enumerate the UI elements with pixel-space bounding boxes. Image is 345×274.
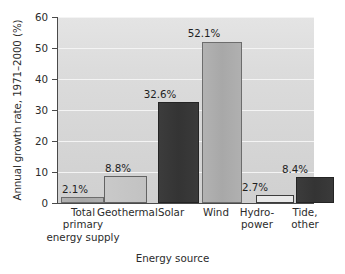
gridline-50 — [58, 48, 314, 49]
x-category-label-tide-other: Tide, other — [282, 206, 328, 231]
x-category-label-wind: Wind — [195, 206, 237, 218]
bar-chart-figure: Annual growth rate, 1971–2000 (%) 0 10 2… — [0, 0, 345, 274]
x-category-label-hydro-power: Hydro- power — [233, 206, 281, 231]
x-category-label-geothermal: Geothermal — [97, 206, 141, 218]
y-tick-label-40: 40 — [8, 74, 48, 84]
bar-wind[interactable] — [202, 42, 242, 204]
y-tick-label-60: 60 — [8, 12, 48, 22]
bar-total-primary-energy-supply[interactable] — [61, 197, 104, 204]
bar-geothermal[interactable] — [104, 176, 147, 203]
bar-solar[interactable] — [158, 102, 199, 203]
bar-tide-other[interactable] — [296, 177, 334, 203]
plot-area — [57, 17, 314, 204]
value-label-tide-other: 8.4% — [271, 164, 319, 175]
gridline-60 — [58, 17, 314, 18]
value-label-wind: 52.1% — [177, 28, 231, 39]
bar-hydro-power[interactable] — [256, 195, 294, 203]
y-tick-label-30: 30 — [8, 105, 48, 115]
value-label-hydro-power: 2.7% — [231, 182, 279, 193]
y-tick-label-10: 10 — [8, 167, 48, 177]
y-tick-label-50: 50 — [8, 43, 48, 53]
gridline-40 — [58, 79, 314, 80]
x-axis-title: Energy source — [0, 252, 345, 264]
value-label-total-primary-energy-supply: 2.1% — [51, 184, 99, 195]
value-label-solar: 32.6% — [133, 89, 187, 100]
x-category-label-solar: Solar — [150, 206, 192, 218]
value-label-geothermal: 8.8% — [94, 163, 142, 174]
y-tick-label-20: 20 — [8, 136, 48, 146]
